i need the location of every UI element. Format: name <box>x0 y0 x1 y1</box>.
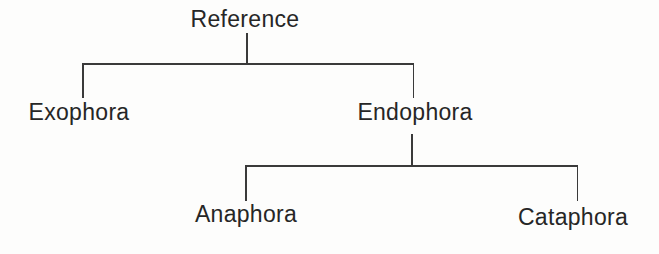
node-exophora: Exophora <box>29 101 130 124</box>
connector-level2-bar <box>245 165 578 167</box>
connector-reference-stem <box>246 33 248 64</box>
node-reference: Reference <box>191 8 300 31</box>
connector-level1-bar <box>82 63 414 65</box>
connector-cataphora-drop <box>577 165 579 201</box>
connector-exophora-drop <box>82 63 84 98</box>
node-cataphora: Cataphora <box>518 206 628 229</box>
tree-diagram: Reference Exophora Endophora Anaphora Ca… <box>0 0 659 254</box>
node-endophora: Endophora <box>357 101 472 124</box>
node-anaphora: Anaphora <box>195 203 297 226</box>
connector-endophora-stem <box>411 134 413 166</box>
connector-endophora-drop <box>413 63 415 98</box>
connector-anaphora-drop <box>245 165 247 201</box>
